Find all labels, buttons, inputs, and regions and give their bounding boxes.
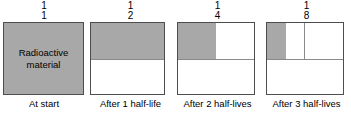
fraction-numerator: 1 [215, 1, 221, 10]
sample-box-3-top-half [178, 23, 254, 59]
panel-at-start: 1 1 Radioactive material At start [0, 0, 88, 113]
sample-box-1: Radioactive material [3, 22, 84, 95]
sample-box-4-top-half [267, 23, 343, 59]
decayed-segment [305, 23, 343, 59]
halflife-figure: 1 1 Radioactive material At start 1 2 Af… [0, 0, 351, 113]
caption-2: After 1 half-life [88, 98, 173, 110]
horizontal-divider [91, 59, 164, 60]
fraction-label-3: 1 4 [173, 1, 262, 20]
sample-box-4-bottom-half [267, 59, 343, 95]
sample-label-line-2: material [27, 59, 61, 71]
sample-box-4 [266, 22, 344, 95]
caption-1: At start [0, 98, 88, 110]
caption-3: After 2 half-lives [173, 98, 262, 110]
fraction-denominator: 1 [41, 11, 47, 20]
horizontal-divider [178, 59, 254, 60]
fraction-numerator: 1 [41, 1, 47, 10]
sample-box-2-bottom-half [91, 59, 164, 95]
remaining-segment [267, 23, 286, 59]
sample-box-2 [90, 22, 165, 95]
sample-label-line-1: Radioactive [19, 47, 69, 59]
caption-4: After 3 half-lives [262, 98, 351, 110]
fraction-label-4: 1 8 [262, 1, 351, 20]
sample-box-3 [177, 22, 255, 95]
sample-box-2-top-half [91, 23, 164, 59]
remaining-segment [178, 23, 216, 59]
fraction-denominator: 2 [128, 11, 134, 20]
fraction-numerator: 1 [128, 1, 134, 10]
fraction-numerator: 1 [304, 1, 310, 10]
panel-after-3-halflives: 1 8 After 3 half-lives [262, 0, 351, 113]
fraction-denominator: 8 [304, 11, 310, 20]
decayed-segment [216, 23, 254, 59]
fraction-denominator: 4 [215, 11, 221, 20]
sample-box-1-label: Radioactive material [4, 23, 83, 94]
panel-after-1-halflife: 1 2 After 1 half-life [88, 0, 173, 113]
horizontal-divider [267, 59, 343, 60]
panel-after-2-halflives: 1 4 After 2 half-lives [173, 0, 262, 113]
sample-box-3-bottom-half [178, 59, 254, 95]
decayed-segment [286, 23, 305, 59]
remaining-segment [91, 23, 164, 59]
fraction-label-2: 1 2 [88, 1, 173, 20]
fraction-label-1: 1 1 [0, 1, 88, 20]
